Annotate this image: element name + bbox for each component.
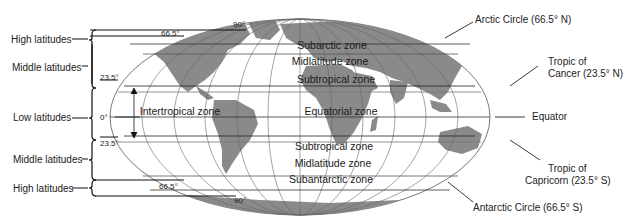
latitude-brackets <box>89 30 96 196</box>
label-equator: Equator <box>532 111 567 123</box>
degree-90-north: 90° <box>233 20 245 29</box>
zone-midlatitude-north: Midlatitude zone <box>292 56 368 67</box>
zone-intertropical: Intertropical zone <box>140 106 221 117</box>
label-tropic-of-capricorn-line2: Capricorn (23.5° S) <box>525 175 611 187</box>
zone-subtropical-south: Subtropical zone <box>295 141 373 152</box>
zone-subtropical-north: Subtropical zone <box>297 74 375 85</box>
degree-66-north: 66.5° <box>161 29 180 38</box>
latitude-zones-diagram: High latitudes Middle latitudes Low lati… <box>0 0 634 224</box>
label-high-latitudes-south: High latitudes <box>13 183 74 194</box>
degree-90-south: 90° <box>234 196 246 205</box>
degree-equator: 0° <box>100 113 108 122</box>
zone-equatorial: Equatorial zone <box>305 106 378 117</box>
zone-subarctic: Subarctic zone <box>297 40 366 51</box>
degree-66-south: 66.5° <box>159 182 178 191</box>
zone-subantarctic: Subantarctic zone <box>289 174 373 185</box>
label-middle-latitudes-south: Middle latitudes <box>13 154 82 165</box>
label-low-latitudes: Low latitudes <box>13 112 71 123</box>
degree-23-south: 23.5° <box>100 139 119 148</box>
label-antarctic-circle: Antarctic Circle (66.5° S) <box>473 202 583 214</box>
label-tropic-of-cancer-line2: Cancer (23.5° N) <box>548 68 623 80</box>
degree-23-north: 23.5° <box>100 73 119 82</box>
zone-midlatitude-south: Midlatitude zone <box>295 158 371 169</box>
label-high-latitudes-north: High latitudes <box>11 34 72 45</box>
label-tropic-of-capricorn-line1: Tropic of <box>548 163 587 175</box>
label-tropic-of-cancer-line1: Tropic of <box>548 56 587 68</box>
label-arctic-circle: Arctic Circle (66.5° N) <box>475 14 571 26</box>
label-middle-latitudes-north: Middle latitudes <box>12 62 81 73</box>
